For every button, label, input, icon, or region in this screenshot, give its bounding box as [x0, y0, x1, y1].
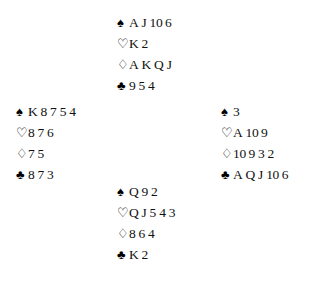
north-club-row: ♣ 954	[117, 75, 172, 96]
south-diamond-ranks: 864	[129, 223, 155, 244]
south-diamond-row: ♢ 864	[117, 223, 176, 244]
north-diamond-ranks: AKQJ	[129, 54, 172, 75]
east-diamond-row: ♢ 10932	[221, 143, 289, 164]
card-rank: 4	[148, 226, 155, 241]
card-rank: 5	[38, 146, 45, 161]
west-spade-ranks: K8754	[28, 101, 76, 122]
card-rank: 8	[28, 125, 35, 140]
north-heart-ranks: K2	[129, 33, 149, 54]
card-rank: 10	[246, 125, 259, 140]
north-spade-row: ♠ AJ106	[117, 12, 172, 33]
east-spade-ranks: 3	[233, 101, 240, 122]
card-rank: Q	[129, 205, 139, 220]
south-spade-row: ♠ Q92	[117, 181, 176, 202]
card-rank: 4	[148, 78, 155, 93]
card-rank: 9	[129, 78, 136, 93]
east-heart-row: ♡ A109	[221, 122, 289, 143]
card-rank: 7	[28, 146, 35, 161]
card-rank: 9	[261, 125, 268, 140]
heart-icon: ♡	[16, 122, 28, 143]
bridge-hand-diagram: { "diagram": { "type": "bridge-deal-layo…	[0, 0, 315, 292]
card-rank: 4	[69, 104, 76, 119]
card-rank: 2	[142, 247, 149, 262]
east-diamond-ranks: 10932	[233, 143, 275, 164]
hand-south: ♠ Q92 ♡ QJ543 ♢ 864 ♣ K2	[117, 181, 176, 265]
south-spade-ranks: Q92	[129, 181, 158, 202]
heart-icon: ♡	[117, 202, 129, 223]
card-rank: K	[129, 36, 139, 51]
heart-icon: ♡	[221, 122, 233, 143]
west-spade-row: ♠ K8754	[16, 101, 76, 122]
card-rank: 6	[139, 226, 146, 241]
north-diamond-row: ♢ AKQJ	[117, 54, 172, 75]
club-icon: ♣	[117, 244, 129, 265]
card-rank: 7	[38, 125, 45, 140]
south-club-row: ♣ K2	[117, 244, 176, 265]
south-heart-ranks: QJ543	[129, 202, 176, 223]
west-diamond-row: ♢ 75	[16, 143, 76, 164]
north-club-ranks: 954	[129, 75, 155, 96]
card-rank: K	[129, 247, 139, 262]
west-club-ranks: 873	[28, 164, 54, 185]
diamond-icon: ♢	[221, 143, 233, 164]
card-rank: K	[28, 104, 38, 119]
east-club-ranks: AQJ106	[233, 164, 289, 185]
card-rank: 7	[50, 104, 57, 119]
spade-icon: ♠	[221, 101, 233, 122]
diamond-icon: ♢	[117, 223, 129, 244]
club-icon: ♣	[221, 164, 233, 185]
spade-icon: ♠	[117, 181, 129, 202]
card-rank: A	[129, 15, 139, 30]
card-rank: 9	[249, 146, 256, 161]
card-rank: A	[233, 167, 243, 182]
card-rank: Q	[154, 57, 164, 72]
card-rank: 5	[139, 78, 146, 93]
card-rank: 10	[233, 146, 246, 161]
card-rank: 5	[150, 205, 157, 220]
card-rank: J	[167, 57, 172, 72]
card-rank: 8	[41, 104, 48, 119]
card-rank: 3	[258, 146, 265, 161]
card-rank: 8	[28, 167, 35, 182]
card-rank: 2	[142, 36, 149, 51]
card-rank: 2	[268, 146, 275, 161]
card-rank: 10	[266, 167, 279, 182]
card-rank: 3	[47, 167, 54, 182]
club-icon: ♣	[117, 75, 129, 96]
card-rank: J	[142, 15, 147, 30]
card-rank: 6	[165, 15, 172, 30]
card-rank: 10	[150, 15, 163, 30]
hand-east: ♠ 3 ♡ A109 ♢ 10932 ♣ AQJ106	[221, 101, 289, 185]
north-heart-row: ♡ K2	[117, 33, 172, 54]
east-heart-ranks: A109	[233, 122, 268, 143]
diamond-icon: ♢	[16, 143, 28, 164]
spade-icon: ♠	[117, 12, 129, 33]
card-rank: J	[258, 167, 263, 182]
west-heart-ranks: 876	[28, 122, 54, 143]
card-rank: 9	[142, 184, 149, 199]
hand-north: ♠ AJ106 ♡ K2 ♢ AKQJ ♣ 954	[117, 12, 172, 96]
card-rank: 4	[159, 205, 166, 220]
west-diamond-ranks: 75	[28, 143, 45, 164]
south-heart-row: ♡ QJ543	[117, 202, 176, 223]
card-rank: A	[233, 125, 243, 140]
card-rank: 8	[129, 226, 136, 241]
west-heart-row: ♡ 876	[16, 122, 76, 143]
card-rank: 7	[38, 167, 45, 182]
card-rank: 2	[151, 184, 158, 199]
hand-west: ♠ K8754 ♡ 876 ♢ 75 ♣ 873	[16, 101, 76, 185]
card-rank: 3	[233, 104, 240, 119]
diamond-icon: ♢	[117, 54, 129, 75]
card-rank: Q	[129, 184, 139, 199]
card-rank: K	[142, 57, 152, 72]
card-rank: 5	[60, 104, 67, 119]
east-spade-row: ♠ 3	[221, 101, 289, 122]
heart-icon: ♡	[117, 33, 129, 54]
card-rank: 6	[282, 167, 289, 182]
club-icon: ♣	[16, 164, 28, 185]
north-spade-ranks: AJ106	[129, 12, 172, 33]
spade-icon: ♠	[16, 101, 28, 122]
card-rank: 3	[169, 205, 176, 220]
card-rank: J	[142, 205, 147, 220]
west-club-row: ♣ 873	[16, 164, 76, 185]
